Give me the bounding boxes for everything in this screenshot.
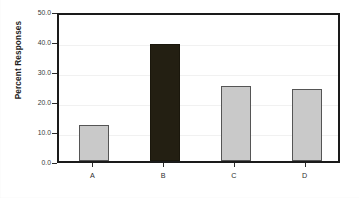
x-axis-tick-mark	[305, 163, 306, 167]
bar-series-group	[59, 15, 338, 161]
y-axis-tick-label: 0.0	[24, 158, 51, 168]
bar-chart-figure: Percent Responses 0.010.020.030.040.050.…	[0, 0, 359, 198]
bar-c	[221, 86, 251, 161]
x-axis-category-label-c: C	[199, 170, 270, 182]
x-axis-category-label-b: B	[128, 170, 199, 182]
y-axis-tick-label: 50.0	[24, 8, 51, 18]
bar-b	[150, 44, 180, 161]
y-axis-tick-label: 20.0	[24, 98, 51, 108]
y-axis-tick-label: 10.0	[24, 128, 51, 138]
x-axis-category-label-a: A	[57, 170, 128, 182]
y-axis-tick-label: 40.0	[24, 38, 51, 48]
x-axis-category-label-d: D	[269, 170, 340, 182]
y-axis-tick-label: 30.0	[24, 68, 51, 78]
plot-area	[57, 13, 340, 163]
x-axis-tick-mark	[163, 163, 164, 167]
x-axis-tick-mark-group	[57, 163, 340, 167]
bar-d	[292, 89, 322, 161]
y-axis-tick-label-group: 0.010.020.030.040.050.0	[24, 13, 51, 163]
x-axis-tick-mark	[92, 163, 93, 167]
x-axis-tick-mark	[234, 163, 235, 167]
x-axis-category-label-group: ABCD	[57, 170, 340, 182]
bar-a	[79, 125, 109, 161]
